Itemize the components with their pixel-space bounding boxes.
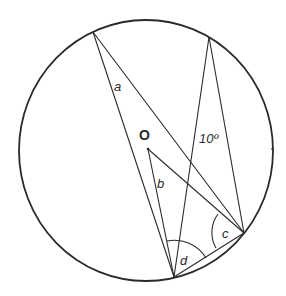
- label-center-o: O: [139, 127, 150, 143]
- center-point: [147, 148, 150, 151]
- chord-topleft-right: [93, 32, 244, 233]
- angle-arc-c: [212, 214, 218, 248]
- chord-topleft-bottom: [93, 32, 174, 277]
- label-d: d: [180, 253, 188, 268]
- circle-diagram: O a b 10º c d: [0, 0, 286, 296]
- label-given-angle: 10º: [199, 131, 219, 146]
- circle: [19, 20, 273, 281]
- label-b: b: [157, 176, 164, 191]
- label-a: a: [114, 79, 121, 94]
- label-c: c: [222, 226, 229, 241]
